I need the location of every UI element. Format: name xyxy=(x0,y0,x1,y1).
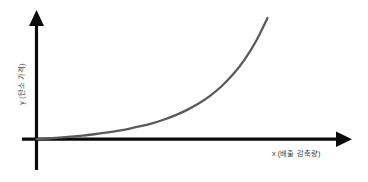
arrow-up-icon xyxy=(29,10,44,26)
arrow-right-icon xyxy=(336,132,352,148)
chart-canvas: y (탄소 가격) x (배출 감축량) xyxy=(0,0,368,182)
carbon-price-abatement-chart: y (탄소 가격) x (배출 감축량) xyxy=(0,0,368,182)
x-axis-label: x (배출 감축량) xyxy=(272,149,320,158)
abatement-cost-curve xyxy=(37,18,268,139)
y-axis-label: y (탄소 가격) xyxy=(17,63,26,104)
